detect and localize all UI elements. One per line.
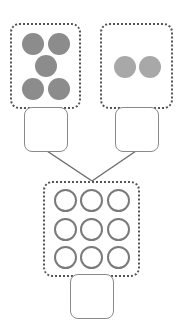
right-dot-group — [100, 23, 173, 109]
circle — [54, 246, 77, 269]
circle — [80, 189, 103, 212]
dot — [22, 78, 44, 100]
dot — [48, 33, 70, 55]
dot — [114, 56, 136, 78]
total-answer-box[interactable] — [70, 274, 114, 319]
circle — [54, 189, 77, 212]
dot — [22, 33, 44, 55]
circle — [107, 246, 130, 269]
circle — [107, 189, 130, 212]
total-dot-group — [43, 181, 140, 277]
dot — [139, 56, 161, 78]
circle — [80, 218, 103, 241]
circle — [54, 218, 77, 241]
dot — [48, 78, 70, 100]
left-dot-group — [10, 23, 81, 109]
left-answer-box[interactable] — [24, 107, 68, 152]
right-answer-box[interactable] — [115, 107, 159, 152]
circle — [80, 246, 103, 269]
dot — [35, 55, 57, 77]
circle — [107, 218, 130, 241]
